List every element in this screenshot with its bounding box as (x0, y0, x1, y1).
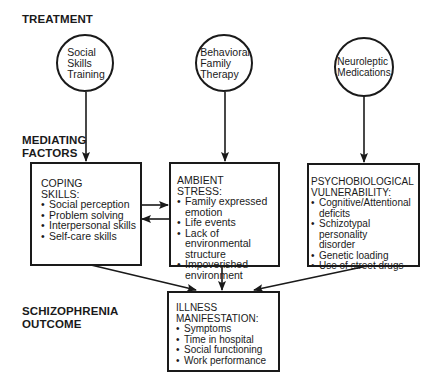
list-item: Self-care skills (41, 231, 140, 242)
list-item: Family expressed emotion (177, 196, 278, 217)
list-item: Use of street drugs (311, 261, 418, 272)
list-item: Impoverished environment (177, 259, 278, 280)
treatment-node-social-skills-training: Social Skills Training (56, 34, 114, 92)
node-label: Social Skills Training (67, 47, 105, 80)
section-label-schizophrenia-outcome: SCHIZOPHRENIA OUTCOME (22, 305, 119, 331)
box-title: ILLNESS MANIFESTATION: (176, 303, 278, 324)
factor-list: Cognitive/Attentional deficits Schizotyp… (311, 198, 418, 272)
list-item: Schizotypal personality disorder (311, 219, 418, 251)
list-item: Social functioning (176, 345, 278, 356)
factor-box-ambient-stress: AMBIENT STRESS: Family expressed emotion… (169, 162, 280, 267)
outcome-box-illness-manifestation: ILLNESS MANIFESTATION: Symptoms Time in … (167, 291, 280, 372)
box-title: PSYCHOBIOLOGICAL VULNERABILITY: (311, 177, 418, 198)
factor-list: Family expressed emotion Life events Lac… (177, 196, 278, 280)
factor-list: Social perception Problem solving Interp… (41, 199, 140, 241)
node-label: Behavioral Family Therapy (200, 47, 250, 80)
list-item: Social perception (41, 199, 140, 210)
list-item: Life events (177, 217, 278, 228)
factor-box-coping-skills: COPING SKILLS: Social perception Problem… (30, 162, 142, 266)
factor-box-psychobiological-vulnerability: PSYCHOBIOLOGICAL VULNERABILITY: Cognitiv… (307, 163, 420, 267)
section-label-treatment: TREATMENT (22, 13, 93, 26)
node-label: Neuroleptic Medications (337, 56, 390, 78)
box-title: AMBIENT STRESS: (177, 175, 278, 196)
outcome-list: Symptoms Time in hospital Social functio… (176, 324, 278, 366)
treatment-node-neuroleptic-medications: Neuroleptic Medications (334, 37, 394, 97)
list-item: Cognitive/Attentional deficits (311, 198, 418, 219)
section-label-mediating-factors: MEDIATING FACTORS (22, 134, 87, 160)
list-item: Symptoms (176, 324, 278, 335)
box-title: COPING SKILLS: (41, 178, 140, 199)
list-item: Lack of environmental structure (177, 228, 278, 260)
list-item: Interpersonal skills (41, 220, 140, 231)
list-item: Work performance (176, 356, 278, 367)
treatment-node-behavioral-family-therapy: Behavioral Family Therapy (195, 34, 253, 92)
